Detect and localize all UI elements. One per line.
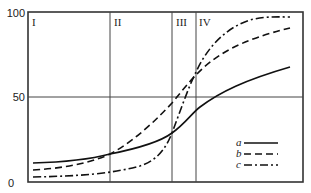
y-tick-50: 50	[13, 91, 25, 103]
region-label-ii: II	[114, 16, 122, 28]
region-label-iii: III	[176, 16, 187, 28]
legend: a b c	[236, 136, 278, 170]
y-tick-100: 100	[7, 7, 25, 19]
region-label-iv: IV	[199, 16, 211, 28]
region-label-i: I	[32, 16, 36, 28]
chart-canvas: 100 50 0 I II III IV a b c	[0, 0, 311, 193]
y-tick-0: 0	[8, 177, 14, 189]
series-b-line	[33, 28, 290, 170]
legend-label-c: c	[236, 158, 241, 170]
